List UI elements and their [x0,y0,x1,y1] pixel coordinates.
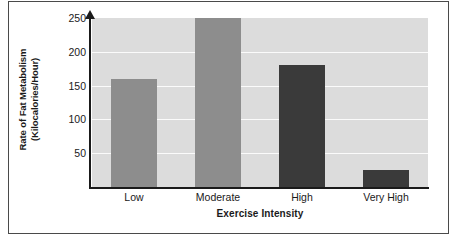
y-axis-tick-label: 150 [52,81,86,91]
x-axis-tick-label: High [260,191,344,203]
y-axis-arrow-icon [85,10,95,19]
gridline [92,52,428,53]
y-axis-tick-label: 50 [52,148,86,158]
x-axis-tick-label: Low [92,191,176,203]
y-axis-tick-labels: 50100150200250 [52,0,86,238]
bar [279,65,325,187]
y-axis-tick-label: 200 [52,47,86,57]
y-axis-title: Rate of Fat Metabolism (Kilocalories/Hou… [17,15,40,185]
x-axis-title: Exercise Intensity [92,208,428,219]
x-axis-tick-label: Very High [344,191,428,203]
bar [111,79,157,187]
x-axis-tick-labels: LowModerateHighVery High [92,191,428,207]
y-axis-line [89,18,91,188]
figure-canvas: Rate of Fat Metabolism (Kilocalories/Hou… [0,0,452,238]
x-axis-line [89,187,429,189]
bar [195,18,241,187]
y-axis-tick-label: 100 [52,114,86,124]
y-axis-tick-label: 250 [52,13,86,23]
y-axis-title-line-2: (Kilocalories/Hour) [28,15,40,185]
y-axis-title-line-1: Rate of Fat Metabolism [17,15,29,185]
bar [363,170,409,187]
x-axis-tick-label: Moderate [176,191,260,203]
plot-area [92,18,428,187]
